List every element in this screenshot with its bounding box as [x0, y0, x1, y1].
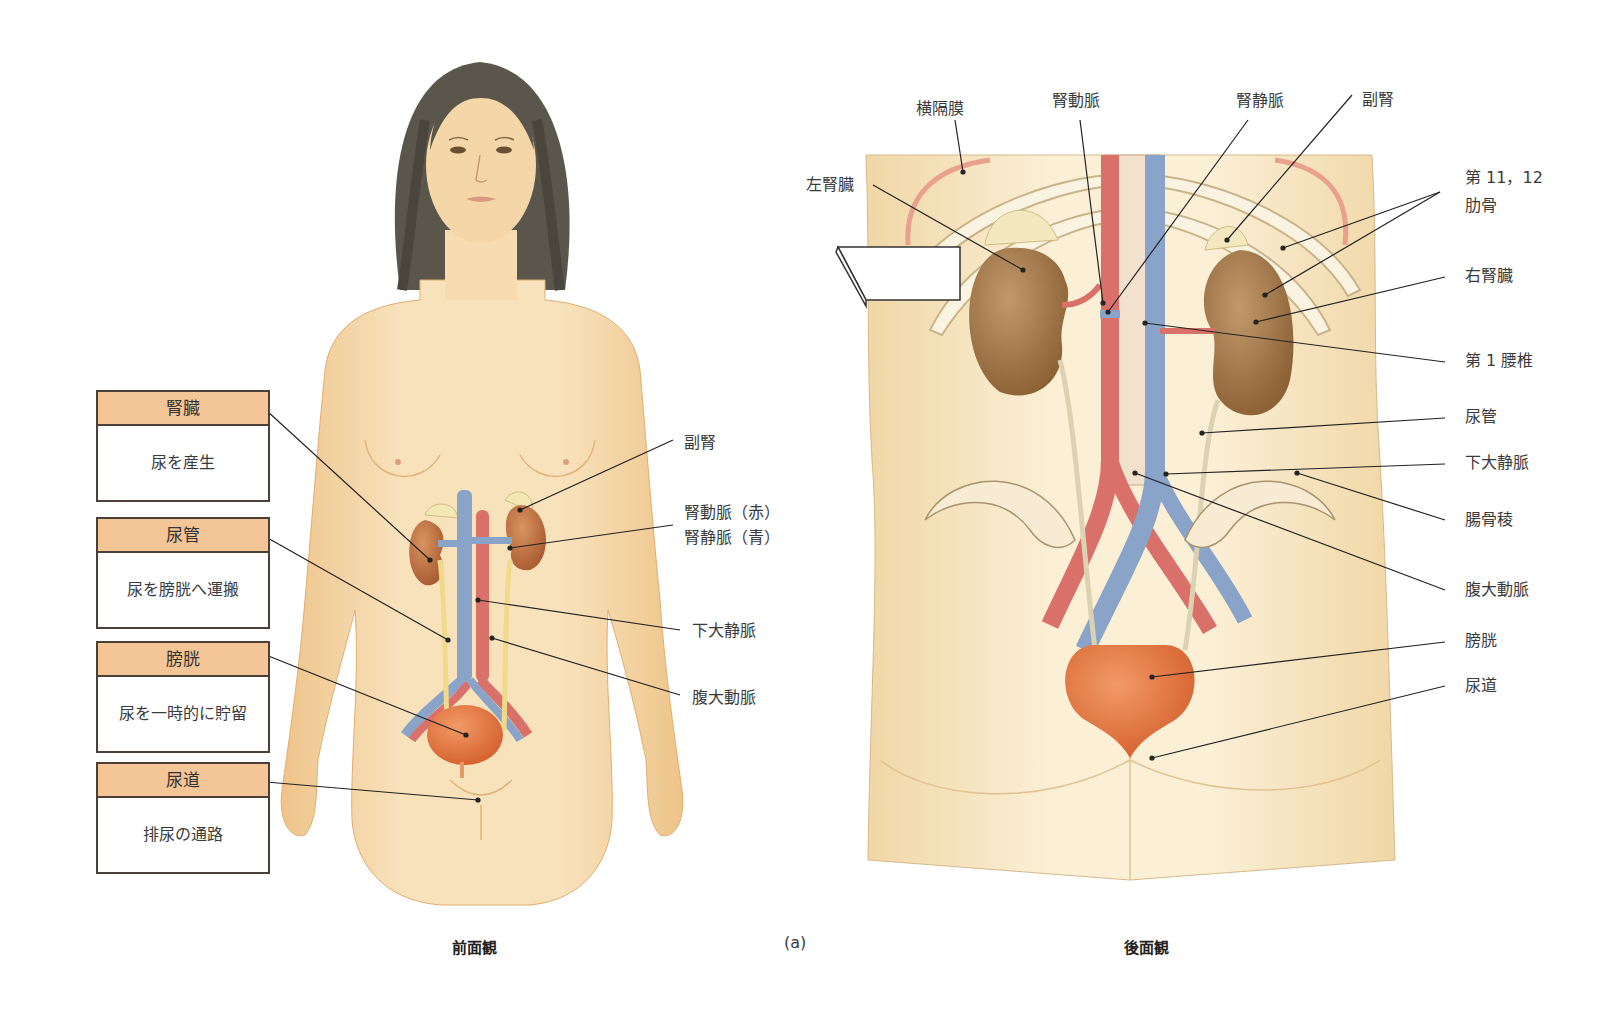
- label-front-renal-artery: 腎動脈（赤）: [684, 503, 780, 523]
- function-box-text: 尿を一時的に貯留: [98, 677, 268, 751]
- function-box-title: 尿管: [98, 519, 268, 553]
- label-back-l1-vertebra: 第 1 腰椎: [1465, 351, 1533, 371]
- function-box-kidney: 腎臓 尿を産生: [96, 390, 270, 502]
- label-back-urethra: 尿道: [1465, 676, 1497, 696]
- label-back-ribs-line2: 肋骨: [1465, 196, 1497, 216]
- front-figure: [281, 62, 683, 905]
- function-box-bladder: 膀胱 尿を一時的に貯留: [96, 641, 270, 753]
- function-box-text: 排尿の通路: [98, 798, 268, 872]
- label-front-aorta: 腹大動脈: [692, 688, 756, 708]
- caption-front-view: 前面観: [452, 936, 497, 957]
- function-box-ureter: 尿管 尿を膀胱へ運搬: [96, 517, 270, 629]
- caption-back-view: 後面観: [1124, 936, 1169, 957]
- function-box-text: 尿を膀胱へ運搬: [98, 553, 268, 627]
- label-back-ureter: 尿管: [1465, 407, 1497, 427]
- urinary-system-diagram: 腎臓 尿を産生 尿管 尿を膀胱へ運搬 膀胱 尿を一時的に貯留 尿道 排尿の通路 …: [0, 0, 1620, 1017]
- function-box-title: 尿道: [98, 764, 268, 798]
- back-figure: [836, 155, 1395, 880]
- label-back-aorta: 腹大動脈: [1465, 580, 1529, 600]
- label-back-ivc: 下大静脈: [1465, 453, 1529, 473]
- function-box-urethra: 尿道 排尿の通路: [96, 762, 270, 874]
- function-box-title: 膀胱: [98, 643, 268, 677]
- label-back-renal-vein: 腎静脈: [1236, 91, 1284, 111]
- panel-label: (a): [784, 933, 806, 953]
- function-box-title: 腎臓: [98, 392, 268, 426]
- function-box-text: 尿を産生: [98, 426, 268, 500]
- label-back-renal-artery: 腎動脈: [1052, 91, 1100, 111]
- label-back-left-kidney: 左腎臓: [806, 175, 854, 195]
- label-front-ivc: 下大静脈: [692, 621, 756, 641]
- label-back-iliac-crest: 腸骨稜: [1465, 510, 1513, 530]
- label-back-diaphragm: 横隔膜: [916, 99, 964, 119]
- label-back-right-kidney: 右腎臓: [1465, 266, 1513, 286]
- label-back-ribs-line1: 第 11，12: [1465, 168, 1543, 188]
- label-front-adrenal: 副腎: [684, 433, 716, 453]
- label-back-bladder: 膀胱: [1465, 631, 1497, 651]
- label-front-renal-vein: 腎静脈（青）: [684, 528, 780, 548]
- label-back-adrenal: 副腎: [1362, 90, 1394, 110]
